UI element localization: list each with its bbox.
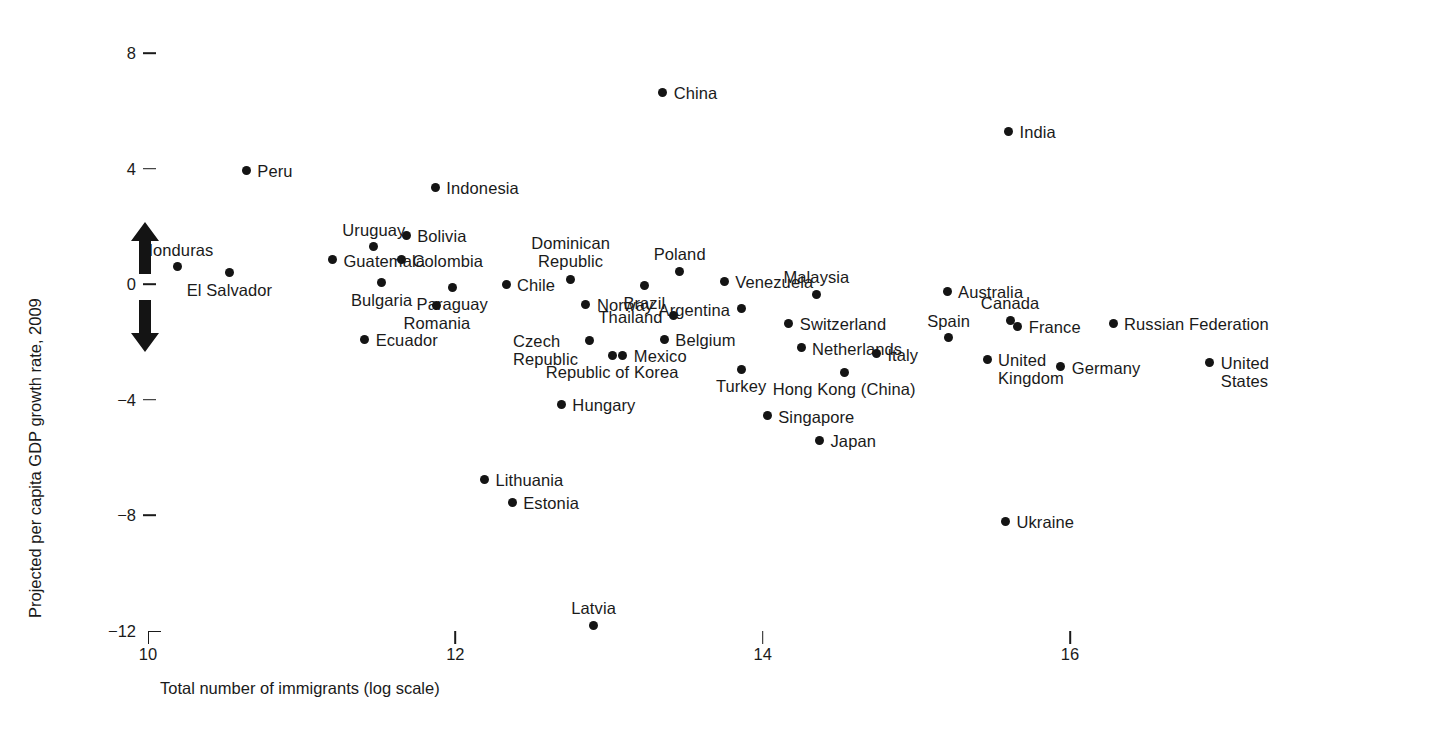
y-axis-tick-label: 8	[127, 44, 136, 62]
y-axis-tick-mark	[143, 283, 156, 285]
data-point[interactable]	[1205, 358, 1214, 367]
y-axis-tick-mark	[143, 52, 156, 54]
x-axis-title: Total number of immigrants (log scale)	[160, 679, 440, 698]
data-point-label: Switzerland	[800, 315, 886, 333]
y-axis-tick-label: −12	[108, 622, 136, 640]
data-point[interactable]	[1056, 362, 1065, 371]
data-point[interactable]	[585, 336, 594, 345]
data-point[interactable]	[660, 335, 669, 344]
data-point[interactable]	[581, 300, 590, 309]
data-point-label: Russian Federation	[1124, 315, 1269, 333]
data-point[interactable]	[675, 267, 684, 276]
data-point[interactable]	[589, 621, 598, 630]
scatter-plot-figure: 840−4−8−1210121416ChinaIndiaPeruIndonesi…	[0, 0, 1431, 754]
data-point-label: Japan	[831, 432, 876, 450]
y-axis-tick-label: −8	[117, 506, 136, 524]
axis-origin-corner	[148, 631, 161, 644]
data-point-label: Estonia	[523, 494, 579, 512]
data-point[interactable]	[502, 280, 511, 289]
data-point[interactable]	[618, 351, 627, 360]
data-point-label: Turkey	[716, 377, 766, 395]
data-point[interactable]	[840, 368, 849, 377]
data-point[interactable]	[242, 166, 251, 175]
x-axis-tick-mark	[455, 631, 457, 644]
data-point[interactable]	[943, 287, 952, 296]
data-point-label: Malaysia	[783, 268, 849, 286]
data-point[interactable]	[566, 275, 575, 284]
data-point[interactable]	[328, 255, 337, 264]
data-point-label: Germany	[1072, 359, 1141, 377]
data-point-label: Lithuania	[496, 471, 564, 489]
data-point-label: Singapore	[778, 408, 854, 426]
data-point-label: United States	[1221, 354, 1269, 390]
data-point[interactable]	[480, 475, 489, 484]
x-axis-tick-label: 10	[139, 645, 157, 663]
data-point[interactable]	[431, 183, 440, 192]
data-point-label: Republic of Korea	[546, 363, 679, 381]
data-point-label: Bolivia	[417, 227, 466, 245]
data-point-label: Poland	[654, 245, 706, 263]
data-point[interactable]	[360, 335, 369, 344]
y-axis-title: Projected per capita GDP growth rate, 20…	[26, 298, 45, 618]
data-point[interactable]	[720, 277, 729, 286]
data-point[interactable]	[1013, 322, 1022, 331]
data-point[interactable]	[1001, 517, 1010, 526]
data-point-label: India	[1020, 123, 1056, 141]
data-point-label: United Kingdom	[998, 351, 1064, 387]
data-point-label: Ecuador	[376, 331, 438, 349]
y-axis-tick-label: 4	[127, 160, 136, 178]
down-arrow-icon	[130, 300, 160, 352]
data-point[interactable]	[812, 290, 821, 299]
x-axis-tick-label: 14	[753, 645, 771, 663]
data-point-label: Ukraine	[1016, 513, 1074, 531]
data-point-label: Peru	[257, 162, 292, 180]
data-point-label: Italy	[887, 346, 918, 364]
data-point[interactable]	[658, 88, 667, 97]
data-point-label: Dominican Republic	[531, 234, 610, 270]
data-point[interactable]	[640, 281, 649, 290]
y-axis-tick-label: −4	[117, 391, 136, 409]
data-point-label: China	[674, 84, 718, 102]
data-point[interactable]	[608, 351, 617, 360]
data-point[interactable]	[1109, 319, 1118, 328]
data-point[interactable]	[173, 262, 182, 271]
data-point[interactable]	[983, 355, 992, 364]
data-point[interactable]	[1004, 127, 1013, 136]
data-point[interactable]	[377, 278, 386, 287]
y-axis-tick-mark	[143, 399, 156, 401]
data-point-label: Bulgaria	[351, 291, 412, 309]
y-axis-tick-label: 0	[127, 275, 136, 293]
x-axis-tick-mark	[762, 631, 764, 644]
data-point-label: Thailand	[598, 308, 662, 326]
y-axis-tick-mark	[143, 515, 156, 517]
data-point-label: Uruguay	[342, 221, 405, 239]
data-point[interactable]	[872, 349, 881, 358]
data-point[interactable]	[557, 400, 566, 409]
data-point[interactable]	[508, 498, 517, 507]
data-point[interactable]	[448, 283, 457, 292]
plot-area: 840−4−8−1210121416ChinaIndiaPeruIndonesi…	[0, 0, 1431, 754]
data-point-label: Paraguay	[417, 295, 488, 313]
data-point[interactable]	[763, 411, 772, 420]
data-point[interactable]	[797, 343, 806, 352]
data-point-label: Chile	[517, 276, 555, 294]
y-axis-tick-mark	[143, 168, 156, 170]
x-axis-tick-label: 16	[1061, 645, 1079, 663]
data-point[interactable]	[369, 242, 378, 251]
data-point-label: Canada	[981, 294, 1039, 312]
data-point-label: Indonesia	[446, 179, 518, 197]
data-point[interactable]	[944, 333, 953, 342]
data-point[interactable]	[669, 311, 678, 320]
x-axis-tick-label: 12	[446, 645, 464, 663]
data-point[interactable]	[737, 365, 746, 374]
data-point-label: Hungary	[572, 396, 635, 414]
data-point-label: Guatemala	[343, 252, 425, 270]
data-point-label: Hong Kong (China)	[773, 380, 916, 398]
up-arrow-icon	[130, 222, 160, 274]
data-point[interactable]	[815, 436, 824, 445]
x-axis-tick-mark	[1069, 631, 1071, 644]
data-point[interactable]	[225, 268, 234, 277]
data-point[interactable]	[737, 304, 746, 313]
data-point-label: Spain	[927, 312, 970, 330]
data-point[interactable]	[784, 319, 793, 328]
